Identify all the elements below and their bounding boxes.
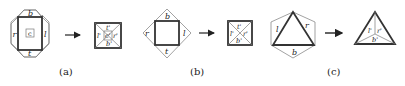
label-b: b (28, 9, 33, 18)
caption-b: (b) (190, 66, 204, 77)
label-l: l (44, 30, 47, 39)
label-b-prime: b' (236, 37, 242, 45)
label-r-prime: r' (377, 27, 382, 35)
panel-a: b r l t c t' l' c' r' b' (a) (11, 9, 121, 78)
label-l: l (276, 25, 279, 34)
caption-c: (c) (327, 66, 341, 77)
label-b-prime: b' (372, 36, 378, 44)
label-l: l (183, 29, 186, 38)
label-c: c (28, 30, 32, 38)
label-r: r (13, 30, 18, 39)
label-r: r (145, 29, 150, 38)
label-t-prime: t' (237, 23, 242, 31)
panel-b-target-figure: t' l' r' b' (228, 21, 252, 45)
panel-a-source-figure: b r l t c (11, 9, 49, 59)
label-l-prime: l' (97, 32, 101, 40)
label-l-prime: l' (368, 27, 372, 35)
label-c-prime: c' (105, 32, 111, 40)
label-b: b (165, 12, 170, 21)
panel-a-target-figure: t' l' c' r' b' (95, 23, 121, 48)
panel-c-source-figure: l r b (271, 12, 315, 58)
panel-b: b r l t t' l' r' b' (b) (143, 9, 252, 77)
label-b-prime: b' (106, 40, 112, 48)
panel-c-target-figure: l' r' b' (355, 12, 395, 44)
label-r-prime: r' (243, 30, 248, 38)
label-r: r (305, 21, 310, 30)
label-r-prime: r' (113, 32, 118, 40)
label-l-prime: l' (230, 30, 234, 38)
label-b: b (292, 48, 297, 57)
panel-c: l r b l' r' b' (c) (271, 12, 395, 77)
panel-b-source-figure: b r l t (143, 9, 191, 58)
diagram-canvas: b r l t c t' l' c' r' b' (a) b r l t (0, 0, 405, 86)
caption-a: (a) (59, 66, 73, 77)
label-t: t (165, 47, 169, 56)
label-t-prime: t' (106, 24, 111, 32)
